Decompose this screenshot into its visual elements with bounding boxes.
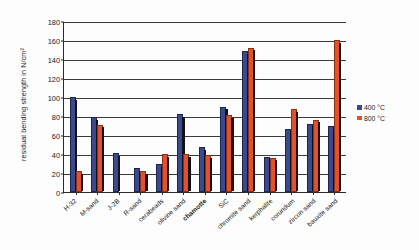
bar-shadow [339, 43, 341, 191]
y-axis-tick-label: 100 [48, 94, 60, 103]
chart-legend: 400 °C800 °C [357, 104, 385, 125]
x-axis-label-cell: H-32 [63, 196, 85, 250]
y-axis-tick-label: 20 [52, 170, 60, 179]
y-axis-tick-label: 120 [48, 75, 60, 84]
bar-800c [183, 154, 189, 192]
y-axis-tick-label: 0 [56, 189, 60, 198]
bar-group [87, 22, 109, 192]
x-axis-label-cell: chromite sand [237, 196, 259, 250]
x-axis-label-cell: chamotte [194, 196, 216, 250]
bar-shadow [318, 122, 320, 191]
bar-group [173, 22, 195, 192]
bar-group [323, 22, 345, 192]
bar-shadow [118, 156, 120, 191]
bar-shadow [296, 112, 298, 191]
bar-group [280, 22, 302, 192]
x-axis-label-text: J-2B [106, 197, 121, 211]
bar-chart: residual bending strength in N/cm² 02040… [0, 0, 419, 250]
bar-800c [97, 125, 103, 192]
y-axis-tick-label: 80 [52, 113, 60, 122]
bar-shadow [253, 50, 255, 191]
legend-swatch-icon [357, 116, 362, 121]
legend-label: 400 °C [364, 104, 385, 111]
x-axis-labels: H-32M-sandJ-2BR-sandcerabeadsolivine san… [63, 196, 346, 250]
bar-group [216, 22, 238, 192]
y-axis-tick-mark [61, 193, 64, 194]
x-axis-label-cell: R-sand [128, 196, 150, 250]
bar-shadow [231, 118, 233, 191]
y-axis-tick-label: 140 [48, 56, 60, 65]
x-axis-label-cell: J-2B [107, 196, 129, 250]
y-axis-tick-label: 160 [48, 37, 60, 46]
x-axis-label-cell: bauxite sand [324, 196, 346, 250]
bar-groups [64, 22, 346, 192]
bar-group [237, 22, 259, 192]
x-axis-label-cell: M-sand [85, 196, 107, 250]
x-axis-label-cell: kerphalite [259, 196, 281, 250]
y-axis-title: residual bending strength in N/cm² [19, 30, 28, 180]
bar-shadow [210, 158, 212, 191]
y-axis-tick-label: 40 [52, 151, 60, 160]
legend-swatch-icon [357, 105, 362, 110]
bar-group [194, 22, 216, 192]
bar-800c [334, 40, 340, 192]
x-axis-label-cell: olivine sand [172, 196, 194, 250]
y-axis-tick-label: 180 [48, 18, 60, 27]
bar-shadow [188, 157, 190, 191]
bar-800c [162, 154, 168, 192]
bar-group [130, 22, 152, 192]
bar-group [65, 22, 87, 192]
legend-label: 800 °C [364, 115, 385, 122]
y-axis-tick-label: 60 [52, 132, 60, 141]
bar-group [108, 22, 130, 192]
bar-800c [248, 48, 254, 192]
bar-group [302, 22, 324, 192]
x-axis-label-text: SiC [217, 197, 230, 209]
bar-group [259, 22, 281, 192]
plot-area: 020406080100120140160180 [63, 22, 346, 193]
legend-item[interactable]: 400 °C [357, 104, 385, 111]
bar-group [151, 22, 173, 192]
bar-shadow [167, 157, 169, 191]
bar-shadow [102, 127, 104, 191]
x-axis-label-text: H-32 [62, 197, 77, 212]
legend-item[interactable]: 800 °C [357, 115, 385, 122]
